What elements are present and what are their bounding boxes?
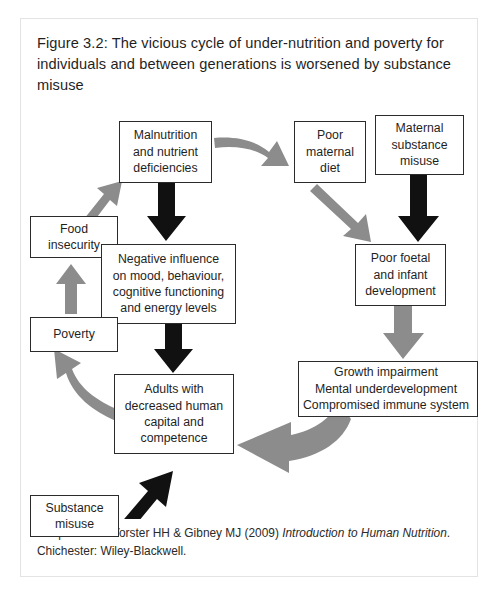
node-food-insecurity-label: Food insecurity bbox=[48, 221, 100, 254]
node-substance-misuse-label: Substance misuse bbox=[45, 500, 103, 533]
node-negative-influence-label: Negative influence on mood, behaviour, c… bbox=[113, 251, 224, 317]
node-poor-maternal-diet[interactable]: Poor maternal diet bbox=[294, 121, 366, 183]
node-poor-foetal-development-label: Poor foetal and infant development bbox=[365, 250, 435, 299]
node-maternal-substance-misuse-label: Maternal substance misuse bbox=[391, 120, 447, 169]
figure-frame: Figure 3.2: The vicious cycle of under-n… bbox=[20, 18, 478, 577]
diagram-canvas: Malnutrition and nutrient deficiencies P… bbox=[21, 111, 477, 519]
figure-title: Figure 3.2: The vicious cycle of under-n… bbox=[37, 33, 461, 96]
node-adults-decreased-capital[interactable]: Adults with decreased human capital and … bbox=[114, 374, 234, 454]
edge-poverty-to-food-insecurity bbox=[56, 264, 86, 314]
node-malnutrition[interactable]: Malnutrition and nutrient deficiencies bbox=[119, 121, 212, 183]
node-negative-influence[interactable]: Negative influence on mood, behaviour, c… bbox=[101, 244, 236, 324]
node-growth-impairment-label: Growth impairment Mental underdevelopmen… bbox=[296, 364, 476, 413]
edge-maternal-substance-to-poor-foetal bbox=[398, 175, 439, 242]
node-poor-foetal-development[interactable]: Poor foetal and infant development bbox=[355, 244, 446, 306]
node-poor-maternal-diet-label: Poor maternal diet bbox=[306, 127, 354, 176]
edge-poor-maternal-diet-to-poor-foetal bbox=[310, 184, 371, 242]
edge-substance-misuse-to-adults bbox=[119, 471, 173, 519]
edge-malnutrition-to-negative-influence bbox=[147, 183, 186, 241]
edge-poor-foetal-to-growth-impairment bbox=[383, 306, 424, 359]
node-poverty[interactable]: Poverty bbox=[30, 317, 118, 352]
edge-malnutrition-to-poor-maternal-diet bbox=[214, 138, 289, 166]
node-growth-impairment[interactable]: Growth impairment Mental underdevelopmen… bbox=[298, 361, 478, 417]
node-maternal-substance-misuse[interactable]: Maternal substance misuse bbox=[375, 115, 464, 175]
edge-adults-to-poverty bbox=[54, 349, 119, 421]
node-adults-decreased-capital-label: Adults with decreased human capital and … bbox=[125, 381, 223, 447]
node-malnutrition-label: Malnutrition and nutrient deficiencies bbox=[133, 127, 198, 176]
node-substance-misuse[interactable]: Substance misuse bbox=[30, 495, 119, 537]
edge-negative-influence-to-adults bbox=[154, 324, 193, 373]
node-poverty-label: Poverty bbox=[53, 326, 95, 342]
caption-book-title: Introduction to Human Nutrition bbox=[282, 526, 447, 540]
